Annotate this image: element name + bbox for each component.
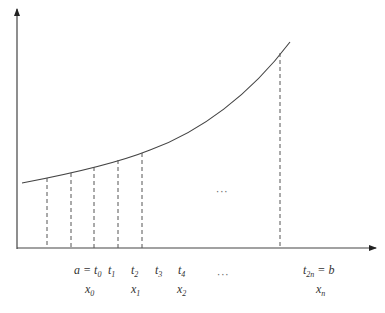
t3-label: t3 bbox=[155, 263, 162, 279]
t1-label: t1 bbox=[108, 263, 115, 279]
x1-label: x1 bbox=[131, 282, 140, 298]
t4-label: t4 bbox=[178, 263, 185, 279]
xn-label: xn bbox=[316, 282, 325, 298]
x0-label: x0 bbox=[85, 282, 94, 298]
t0-label: a = t0 bbox=[74, 263, 101, 279]
x2-label: x2 bbox=[177, 282, 186, 298]
t2-label: t2 bbox=[131, 263, 138, 279]
ellipsis-labels: ··· bbox=[217, 269, 230, 280]
function-curve bbox=[22, 42, 290, 183]
t2n-label: t2n = b bbox=[303, 263, 334, 279]
ellipsis-mid: ··· bbox=[216, 186, 229, 197]
partition-lines bbox=[47, 53, 280, 248]
